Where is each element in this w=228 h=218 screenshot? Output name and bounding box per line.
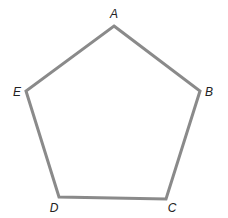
vertex-label-c: C xyxy=(168,201,177,215)
pentagon-svg: A B C D E xyxy=(0,0,228,218)
vertex-label-b: B xyxy=(205,85,213,99)
vertex-label-a: A xyxy=(109,7,118,21)
pentagon-shape xyxy=(26,26,200,199)
pentagon-diagram: A B C D E xyxy=(0,0,228,218)
vertex-label-e: E xyxy=(13,85,22,99)
vertex-label-d: D xyxy=(50,201,59,215)
